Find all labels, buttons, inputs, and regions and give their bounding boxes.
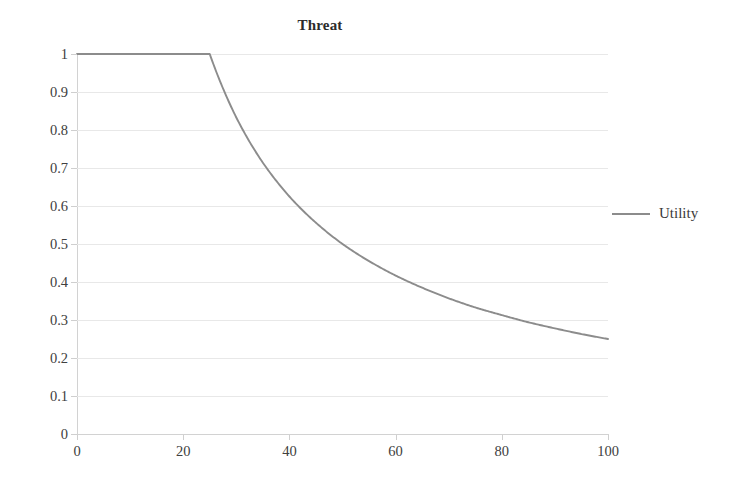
x-axis-tick-label: 20 [153,443,213,460]
x-axis-tick-label: 0 [47,443,107,460]
y-axis-tick [71,168,77,169]
y-axis-tick [71,92,77,93]
y-axis-tick [71,396,77,397]
y-axis-tick [71,244,77,245]
x-axis-tick [396,435,397,440]
x-axis-tick [289,435,290,440]
chart-container: Threat 00.10.20.30.40.50.60.70.80.91 020… [0,0,751,490]
y-axis-tick-label: 1 [6,46,68,63]
y-axis-tick-label: 0.9 [6,84,68,101]
y-axis-tick [71,206,77,207]
y-axis-tick [71,358,77,359]
y-axis-tick-label: 0.2 [6,350,68,367]
y-axis-labels: 00.10.20.30.40.50.60.70.80.91 [0,0,68,490]
x-axis-tick-label: 100 [578,443,638,460]
legend-label-utility: Utility [659,205,698,222]
legend-line-swatch-utility [612,213,650,215]
y-axis-tick-label: 0.8 [6,122,68,139]
x-axis-tick-label: 80 [472,443,532,460]
x-axis-tick [502,435,503,440]
y-axis-tick-label: 0.3 [6,312,68,329]
y-axis-tick [71,54,77,55]
y-axis-tick [71,282,77,283]
x-axis-tick [77,435,78,440]
x-axis-tick [183,435,184,440]
y-axis-tick [71,130,77,131]
x-axis-tick-label: 60 [366,443,426,460]
y-axis-tick-label: 0.6 [6,198,68,215]
x-axis-tick [608,435,609,440]
y-axis-tick [71,320,77,321]
chart-legend: Utility [612,205,698,222]
y-axis-tick-label: 0.5 [6,236,68,253]
y-axis-tick-label: 0.4 [6,274,68,291]
plot-area [77,54,608,434]
y-axis-tick-label: 0 [6,426,68,443]
y-axis-tick-label: 0.7 [6,160,68,177]
x-axis-line [77,434,609,435]
chart-title: Threat [0,17,640,34]
x-axis-tick-label: 40 [259,443,319,460]
utility-curve-path [77,54,608,339]
y-axis-tick-label: 0.1 [6,388,68,405]
series-utility-line [77,54,608,434]
